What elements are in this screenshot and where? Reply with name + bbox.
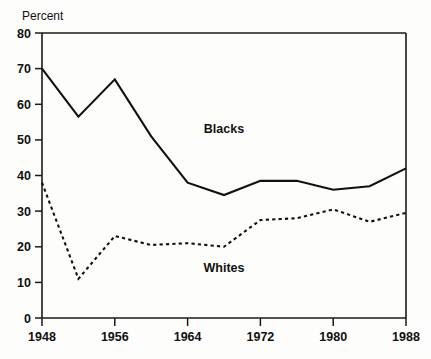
line-chart-figure: 0 10 20 30 40 50 60 70 80 1948 1956 1964… <box>0 0 431 359</box>
series-annotation-blacks: Blacks <box>204 122 244 136</box>
y-tick-label-40: 40 <box>17 169 31 183</box>
plot-frame <box>42 33 406 318</box>
x-axis-ticks <box>42 318 406 326</box>
y-tick-label-60: 60 <box>17 98 31 112</box>
y-axis-title: Percent <box>22 9 64 23</box>
x-tick-label-1956: 1956 <box>101 330 129 344</box>
y-tick-label-50: 50 <box>17 133 31 147</box>
x-tick-label-1948: 1948 <box>28 330 56 344</box>
x-tick-label-1972: 1972 <box>246 330 274 344</box>
x-tick-label-1980: 1980 <box>319 330 347 344</box>
x-tick-label-1964: 1964 <box>174 330 202 344</box>
y-tick-label-30: 30 <box>17 205 31 219</box>
y-tick-label-70: 70 <box>17 62 31 76</box>
chart-canvas: 0 10 20 30 40 50 60 70 80 1948 1956 1964… <box>0 0 431 359</box>
y-tick-label-0: 0 <box>24 312 31 326</box>
x-tick-label-1988: 1988 <box>392 330 420 344</box>
y-axis-tick-labels: 0 10 20 30 40 50 60 70 80 <box>17 27 31 326</box>
y-tick-label-80: 80 <box>17 27 31 41</box>
series-annotation-whites: Whites <box>204 261 245 275</box>
y-tick-label-10: 10 <box>17 276 31 290</box>
y-tick-label-20: 20 <box>17 240 31 254</box>
y-axis-ticks <box>35 33 42 318</box>
x-axis-tick-labels: 1948 1956 1964 1972 1980 1988 <box>28 330 420 344</box>
